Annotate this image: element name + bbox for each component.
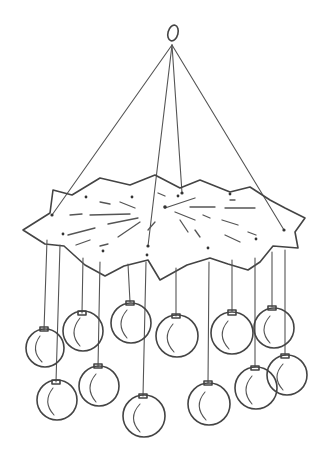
ornament-ball: [188, 381, 230, 425]
ornament-ball: [79, 364, 119, 406]
star-shape: [23, 175, 305, 280]
mobile-drawing: [0, 0, 323, 459]
ornament-ball: [63, 311, 103, 351]
ornament-ball: [254, 306, 294, 348]
suspension-strings: [52, 45, 284, 246]
ornament-ball: [156, 314, 198, 357]
hook-icon: [166, 24, 180, 42]
illustration-canvas: hanging star mobile with ornament balls: [0, 0, 323, 459]
ornament-ball: [26, 327, 64, 367]
ornament-ball: [211, 310, 253, 354]
star-fold-lines: [68, 193, 256, 246]
ornament-ball: [123, 394, 165, 437]
star-hole-dots: [50, 191, 285, 256]
ornaments: [26, 301, 307, 437]
ornament-ball: [37, 380, 77, 420]
